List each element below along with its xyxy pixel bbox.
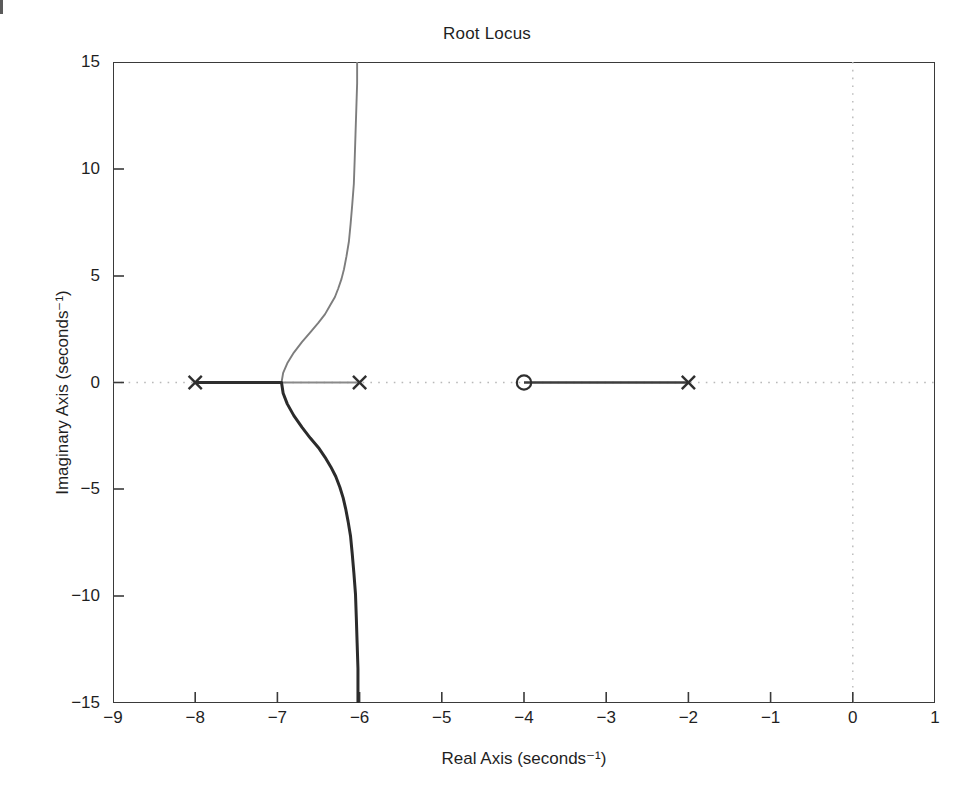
xtick-label: 0: [848, 708, 857, 728]
root-locus-plot: [113, 62, 935, 703]
xtick-label: −7: [268, 708, 287, 728]
xtick-label: −8: [185, 708, 204, 728]
ytick-label: 10: [48, 159, 100, 179]
xtick-label: −6: [350, 708, 369, 728]
y-axis-label: Imaginary Axis (seconds⁻¹): [52, 213, 73, 573]
page-title: Root Locus: [0, 24, 974, 44]
locus-branch-upper: [282, 62, 358, 383]
xtick-label: 1: [930, 708, 939, 728]
page-margin-mark: [0, 0, 3, 14]
x-axis-label: Real Axis (seconds⁻¹): [113, 748, 935, 769]
xtick-label: −5: [432, 708, 451, 728]
ytick-label: −10: [48, 586, 100, 606]
tick-marks-group: [113, 169, 853, 703]
xtick-label: −4: [514, 708, 533, 728]
xtick-label: −1: [761, 708, 780, 728]
ytick-label: −15: [48, 693, 100, 713]
root-locus-figure: Root Locus: [0, 0, 974, 801]
xtick-label: −2: [679, 708, 698, 728]
ytick-label: 15: [48, 52, 100, 72]
locus-branch-lower: [282, 383, 358, 704]
xtick-label: −9: [103, 708, 122, 728]
xtick-label: −3: [596, 708, 615, 728]
